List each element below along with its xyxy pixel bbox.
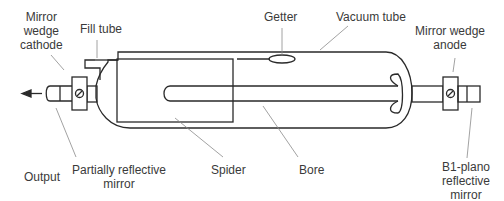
label-line: Mirror — [20, 10, 63, 24]
label-line: wedge — [20, 24, 63, 38]
vacuum-tube-outline — [96, 52, 412, 128]
label-line: Mirror wedge — [415, 24, 485, 38]
bore — [164, 86, 398, 101]
label-line: anode — [415, 38, 485, 52]
leader-lines — [51, 26, 472, 158]
spider — [117, 59, 233, 122]
label-partially-reflective-mirror: Partially reflective mirror — [72, 163, 166, 191]
label-line: mirror — [442, 188, 490, 201]
getter — [269, 55, 295, 63]
anode-connector — [412, 86, 443, 102]
label-mirror-wedge-anode: Mirror wedge anode — [415, 24, 485, 52]
label-bore: Bore — [299, 163, 324, 177]
label-b1-plano-reflective-mirror: B1-plano reflective mirror — [442, 160, 490, 201]
label-line: Partially reflective — [72, 163, 166, 177]
label-mirror-wedge-cathode: Mirror wedge cathode — [20, 10, 63, 52]
label-spider: Spider — [211, 163, 246, 177]
b1-mirror-holder — [458, 86, 480, 102]
label-fill-tube: Fill tube — [80, 22, 122, 36]
label-output: Output — [24, 170, 60, 184]
label-getter: Getter — [264, 10, 297, 24]
label-vacuum-tube: Vacuum tube — [336, 10, 406, 24]
output-mirror-holder — [46, 86, 72, 101]
label-line: mirror — [72, 177, 166, 191]
label-line: B1-plano — [442, 160, 490, 174]
label-line: reflective — [442, 174, 490, 188]
anode-end-dome — [391, 74, 403, 113]
label-line: cathode — [20, 38, 63, 52]
